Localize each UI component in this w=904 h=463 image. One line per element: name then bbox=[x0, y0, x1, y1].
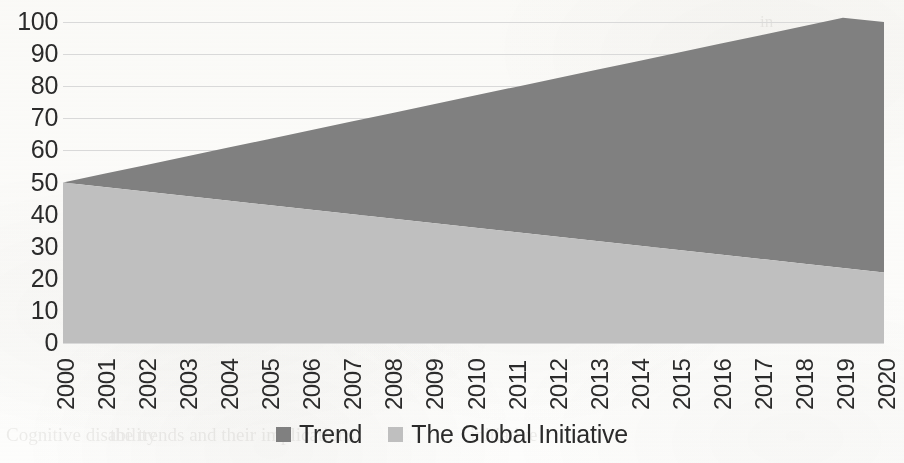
chart-legend: TrendThe Global Initiative bbox=[0, 414, 904, 454]
stacked-area-chart: Quarterly Trend and AnalysisForecastingC… bbox=[0, 0, 904, 463]
square-swatch-icon bbox=[388, 427, 403, 442]
x-axis-tick-label: 2000 bbox=[54, 348, 78, 410]
legend-item[interactable]: Trend bbox=[276, 422, 362, 447]
x-axis-tick-label: 2008 bbox=[382, 348, 406, 410]
x-axis-tick-label: 2001 bbox=[95, 348, 119, 410]
x-axis-tick-label: 2010 bbox=[465, 348, 489, 410]
x-axis-tick-label: 2013 bbox=[588, 348, 612, 410]
x-axis-tick-label: 2007 bbox=[341, 348, 365, 410]
y-axis-tick-label: 0 bbox=[2, 330, 58, 355]
x-axis-tick-label: 2006 bbox=[300, 348, 324, 410]
x-axis-tick-label: 2016 bbox=[711, 348, 735, 410]
x-axis-tick-label: 2004 bbox=[218, 348, 242, 410]
area-series-layer bbox=[63, 0, 884, 344]
y-axis-tick-label: 80 bbox=[2, 73, 58, 98]
y-axis-tick-label: 20 bbox=[2, 266, 58, 291]
y-axis-tick-label: 70 bbox=[2, 105, 58, 130]
legend-item-label: Trend bbox=[299, 422, 362, 447]
x-axis-tick-label: 2018 bbox=[793, 348, 817, 410]
x-axis-tick-label: 2015 bbox=[670, 348, 694, 410]
y-axis-tick-label: 10 bbox=[2, 298, 58, 323]
y-axis-tick-label: 30 bbox=[2, 234, 58, 259]
plot-area: 0102030405060708090100 20002001200220032… bbox=[0, 0, 904, 463]
y-axis: 0102030405060708090100 bbox=[0, 0, 58, 463]
x-axis-tick-label: 2012 bbox=[547, 348, 571, 410]
y-axis-tick-label: 100 bbox=[2, 9, 58, 34]
x-axis-tick-label: 2011 bbox=[506, 348, 530, 410]
x-axis-tick-label: 2009 bbox=[423, 348, 447, 410]
y-axis-tick-label: 90 bbox=[2, 41, 58, 66]
x-axis: 2000200120022003200420052006200720082009… bbox=[63, 348, 884, 410]
square-swatch-icon bbox=[276, 427, 291, 442]
legend-item-label: The Global Initiative bbox=[411, 422, 628, 447]
x-axis-tick-label: 2002 bbox=[136, 348, 160, 410]
y-axis-tick-label: 40 bbox=[2, 202, 58, 227]
x-axis-tick-label: 2005 bbox=[259, 348, 283, 410]
y-axis-tick-label: 60 bbox=[2, 137, 58, 162]
x-axis-tick-label: 2017 bbox=[752, 348, 776, 410]
y-axis-tick-label: 50 bbox=[2, 170, 58, 195]
x-axis-tick-label: 2003 bbox=[177, 348, 201, 410]
legend-item[interactable]: The Global Initiative bbox=[388, 422, 628, 447]
x-axis-tick-label: 2019 bbox=[834, 348, 858, 410]
x-axis-tick-label: 2020 bbox=[875, 348, 899, 410]
x-axis-tick-label: 2014 bbox=[629, 348, 653, 410]
